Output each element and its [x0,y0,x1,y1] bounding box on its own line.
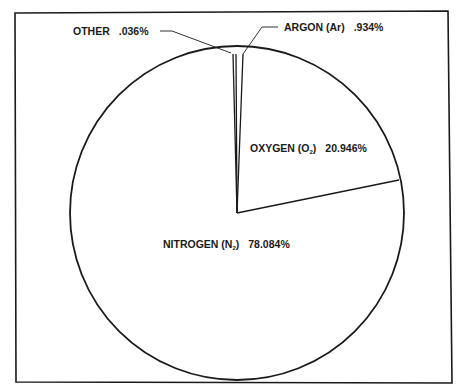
oxygen-label: OXYGEN (O2)20.946% [250,142,367,155]
other-label: OTHER.036% [73,25,149,37]
pie-chart: OTHER.036% ARGON (Ar).934% OXYGEN (O2)20… [0,0,465,389]
argon-label: ARGON (Ar).934% [284,21,384,33]
nitrogen-label: NITROGEN (N2)78.084% [163,238,290,251]
